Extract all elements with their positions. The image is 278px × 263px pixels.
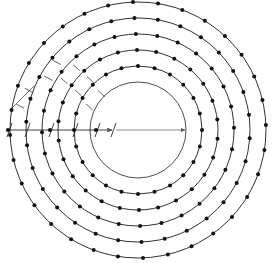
station-node bbox=[262, 148, 266, 152]
station-node bbox=[119, 190, 123, 194]
station-node bbox=[20, 182, 24, 186]
station-node bbox=[235, 181, 239, 185]
station-node bbox=[25, 143, 29, 147]
station-node bbox=[27, 61, 31, 65]
station-node bbox=[198, 145, 202, 149]
station-node bbox=[116, 254, 120, 258]
station-node bbox=[166, 252, 170, 256]
station-node bbox=[32, 203, 36, 207]
station-node bbox=[69, 237, 73, 241]
station-node bbox=[247, 113, 251, 117]
station-node bbox=[49, 222, 53, 226]
station-node bbox=[104, 183, 108, 187]
station-node bbox=[185, 229, 189, 233]
station-node bbox=[215, 117, 219, 121]
station-node bbox=[252, 74, 256, 78]
station-node bbox=[198, 202, 202, 206]
station-node bbox=[87, 27, 91, 31]
station-node bbox=[131, 0, 135, 4]
station-node bbox=[229, 105, 233, 109]
station-node bbox=[156, 18, 160, 22]
station-node bbox=[116, 51, 120, 55]
station-node bbox=[211, 155, 215, 159]
station-node bbox=[153, 190, 157, 194]
station-node bbox=[141, 256, 145, 260]
station-node bbox=[49, 88, 53, 92]
station-node bbox=[81, 160, 85, 164]
measurement-station-figure bbox=[0, 0, 278, 263]
station-node bbox=[12, 158, 16, 162]
station-node bbox=[81, 96, 85, 100]
station-node bbox=[31, 166, 35, 170]
station-node bbox=[200, 128, 204, 132]
station-node bbox=[240, 53, 244, 57]
station-node bbox=[94, 232, 98, 236]
station-node bbox=[181, 83, 185, 87]
station-node bbox=[61, 101, 65, 105]
station-node bbox=[82, 69, 86, 73]
station-node bbox=[91, 173, 95, 177]
station-node bbox=[57, 139, 61, 143]
station-node bbox=[156, 205, 160, 209]
station-node bbox=[60, 70, 64, 74]
station-node bbox=[74, 145, 78, 149]
station-node bbox=[264, 123, 268, 127]
station-node bbox=[199, 35, 203, 39]
extension-tick bbox=[86, 104, 93, 110]
station-node bbox=[116, 238, 120, 242]
station-node bbox=[71, 174, 75, 178]
station-node bbox=[153, 66, 157, 70]
station-node bbox=[8, 133, 12, 137]
station-node bbox=[40, 130, 44, 134]
station-node bbox=[260, 98, 264, 102]
station-node bbox=[43, 151, 47, 155]
station-node bbox=[56, 119, 60, 123]
station-node bbox=[92, 248, 96, 252]
station-node bbox=[106, 4, 110, 8]
station-node bbox=[74, 111, 78, 115]
station-node bbox=[134, 32, 138, 36]
station-node bbox=[178, 24, 182, 28]
station-node bbox=[50, 56, 54, 60]
station-node bbox=[62, 157, 66, 161]
station-node bbox=[42, 109, 46, 113]
station-node bbox=[190, 244, 194, 248]
station-node bbox=[201, 82, 205, 86]
station-node bbox=[163, 237, 167, 241]
station-node bbox=[256, 172, 260, 176]
station-node bbox=[205, 217, 209, 221]
station-node bbox=[230, 147, 234, 151]
station-node bbox=[138, 224, 142, 228]
station-node bbox=[231, 69, 235, 73]
station-node bbox=[113, 35, 117, 39]
extension-tick bbox=[61, 78, 68, 84]
station-node bbox=[61, 24, 65, 28]
station-node bbox=[92, 42, 96, 46]
station-node bbox=[191, 160, 195, 164]
station-node bbox=[70, 83, 74, 87]
station-node bbox=[180, 214, 184, 218]
station-node bbox=[230, 215, 234, 219]
extension-tick bbox=[53, 60, 61, 64]
station-node bbox=[174, 198, 178, 202]
station-node bbox=[119, 66, 123, 70]
station-node bbox=[41, 187, 45, 191]
station-node bbox=[98, 58, 102, 62]
station-node bbox=[248, 136, 252, 140]
station-node bbox=[194, 52, 198, 56]
station-node bbox=[135, 48, 139, 52]
station-node bbox=[117, 222, 121, 226]
station-node bbox=[50, 172, 54, 176]
station-node bbox=[100, 199, 104, 203]
station-node bbox=[222, 84, 226, 88]
chain-node bbox=[48, 128, 52, 132]
station-node bbox=[132, 16, 136, 20]
station-node bbox=[212, 186, 216, 190]
extension-tick bbox=[87, 77, 94, 83]
station-node bbox=[211, 232, 215, 236]
station-node bbox=[222, 200, 226, 204]
station-node bbox=[96, 215, 100, 219]
station-node bbox=[136, 64, 140, 68]
station-node bbox=[168, 73, 172, 77]
station-node bbox=[136, 192, 140, 196]
